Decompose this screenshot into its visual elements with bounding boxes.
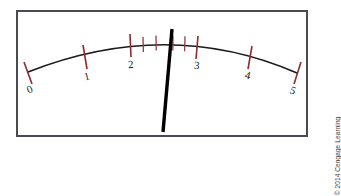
- scale-label-3: 3: [194, 60, 200, 71]
- copyright-credit: © 2014 Cengage Learning: [334, 117, 341, 196]
- meter-frame-border: [16, 10, 308, 137]
- scale-label-2: 2: [128, 59, 134, 70]
